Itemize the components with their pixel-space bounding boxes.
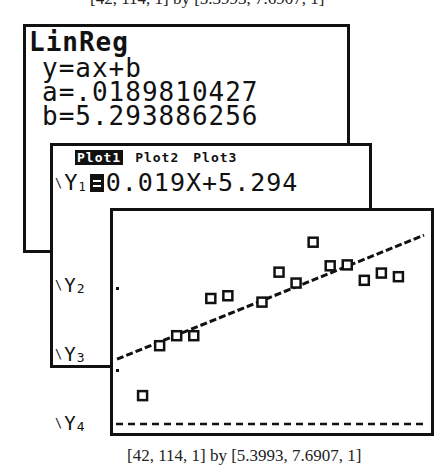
y2-row[interactable]: \Y2 (55, 274, 105, 297)
graph-screen (110, 208, 434, 436)
data-point-marker (275, 268, 284, 277)
data-point-marker (309, 238, 318, 247)
tab-plot3[interactable]: Plot3 (191, 150, 239, 165)
y-function-list: \Y2 \Y3 \Y4 \Y5 \Y6 (55, 228, 105, 475)
y-name: Y (64, 343, 76, 366)
data-point-marker (206, 294, 215, 303)
line-style-icon: \ (55, 176, 63, 190)
data-point-marker (326, 261, 335, 270)
y-axis-tick-mark (116, 287, 119, 290)
data-point-marker (172, 331, 181, 340)
y1-subscript: 1 (78, 180, 86, 194)
tab-plot1[interactable]: Plot1 (75, 150, 123, 165)
equals-selected-icon[interactable] (90, 174, 104, 192)
tab-plot2[interactable]: Plot2 (133, 150, 181, 165)
data-point-marker (257, 298, 266, 307)
y-name: Y (64, 412, 76, 435)
y1-equation-row[interactable]: \ Y 1 0.019X+5.294 (55, 168, 298, 197)
linreg-title: LinReg (29, 29, 129, 55)
window-caption: [42, 114, 1] by [5.3993, 7.6907, 1] (127, 446, 362, 466)
window-caption-top: [42, 114, 1] by [5.3993, 7.6907, 1] (90, 0, 325, 9)
y-subscript: 3 (77, 346, 86, 369)
data-point-marker (155, 341, 164, 350)
y1-expression[interactable]: 0.019X+5.294 (106, 168, 299, 197)
data-point-marker (223, 291, 232, 300)
y-subscript: 4 (77, 415, 86, 438)
y-name: Y (64, 274, 76, 297)
data-point-marker (360, 276, 369, 285)
y3-row[interactable]: \Y3 (55, 343, 105, 366)
line-style-icon: \ (55, 412, 63, 435)
line-style-icon: \ (55, 274, 63, 297)
line-style-icon: \ (55, 343, 63, 366)
linreg-b-value: b=5.293886256 (42, 103, 259, 129)
y-axis-tick-mark (116, 369, 119, 372)
data-point-marker (189, 331, 198, 340)
plot-tabs: Plot1 Plot2 Plot3 (75, 150, 239, 165)
y1-name: Y (64, 170, 78, 195)
scatter-plot (113, 211, 431, 433)
y4-row[interactable]: \Y4 (55, 412, 105, 435)
y-subscript: 2 (77, 277, 86, 300)
data-point-marker (377, 269, 386, 278)
data-point-marker (343, 260, 352, 269)
data-point-marker (138, 391, 147, 400)
data-point-marker (394, 272, 403, 281)
data-point-marker (292, 279, 301, 288)
